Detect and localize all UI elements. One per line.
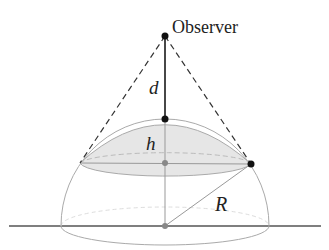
observer-label: Observer	[172, 17, 238, 37]
sphere-center	[162, 223, 168, 229]
cap-height-label: h	[146, 133, 156, 154]
observer-point	[162, 33, 169, 40]
spherical-cap-diagram: Observer d h R	[0, 0, 329, 250]
distance-label: d	[149, 77, 159, 98]
radius-label: R	[214, 193, 227, 215]
tangent-point	[248, 161, 255, 168]
cap-base-center	[162, 160, 168, 166]
cap-top-point	[162, 116, 169, 123]
